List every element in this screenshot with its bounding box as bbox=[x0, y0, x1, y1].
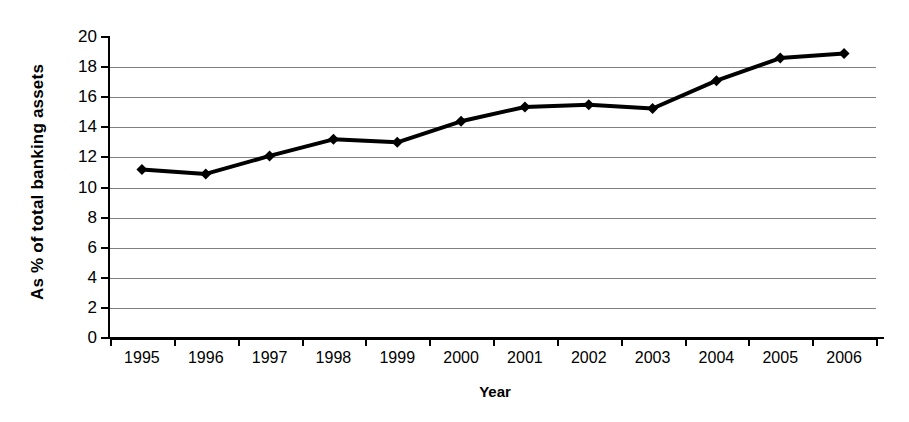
y-axis-tick-label: 4 bbox=[55, 268, 97, 288]
plot-area bbox=[110, 37, 876, 338]
y-axis-tick bbox=[101, 247, 108, 249]
x-axis-tick bbox=[174, 339, 176, 346]
x-axis-tick bbox=[493, 339, 495, 346]
x-axis-tick-label: 2000 bbox=[443, 349, 479, 367]
data-point-marker bbox=[264, 150, 275, 161]
x-axis-tick-label: 1998 bbox=[316, 349, 352, 367]
x-axis-tick-label: 2003 bbox=[635, 349, 671, 367]
y-axis-tick bbox=[101, 307, 108, 309]
x-axis-tick-label: 1997 bbox=[252, 349, 288, 367]
y-axis-tick-label: 2 bbox=[55, 298, 97, 318]
y-axis-tick-label: 8 bbox=[55, 208, 97, 228]
data-series-line bbox=[110, 37, 876, 338]
x-axis-tick-label: 2004 bbox=[699, 349, 735, 367]
y-axis-tick-label: 10 bbox=[55, 178, 97, 198]
x-axis-tick bbox=[302, 339, 304, 346]
data-point-marker bbox=[328, 134, 339, 145]
data-point-marker bbox=[839, 48, 850, 59]
x-axis-tick bbox=[812, 339, 814, 346]
x-axis-tick bbox=[557, 339, 559, 346]
x-axis-tick-label: 2002 bbox=[571, 349, 607, 367]
x-axis-tick bbox=[685, 339, 687, 346]
x-axis-tick bbox=[110, 339, 112, 346]
y-axis-tick bbox=[101, 96, 108, 98]
x-axis-tick bbox=[429, 339, 431, 346]
series-line bbox=[142, 54, 844, 174]
x-axis-tick-label: 2006 bbox=[826, 349, 862, 367]
data-point-marker bbox=[200, 168, 211, 179]
x-axis-tick-label: 2001 bbox=[507, 349, 543, 367]
y-axis-tick-label: 16 bbox=[55, 87, 97, 107]
line-chart: As % of total banking assets 02468101214… bbox=[0, 0, 909, 422]
x-axis-tick bbox=[748, 339, 750, 346]
x-axis-tick-label: 2005 bbox=[762, 349, 798, 367]
x-axis-tick bbox=[876, 339, 878, 346]
x-axis-tick-label: 1999 bbox=[379, 349, 415, 367]
y-axis-tick-label: 0 bbox=[55, 328, 97, 348]
y-axis-tick-label: 14 bbox=[55, 117, 97, 137]
data-point-marker bbox=[456, 116, 467, 127]
y-axis-tick bbox=[101, 66, 108, 68]
x-axis-tick-label: 1995 bbox=[124, 349, 160, 367]
data-point-marker bbox=[519, 101, 530, 112]
y-axis-tick-label: 18 bbox=[55, 57, 97, 77]
y-axis-tick bbox=[101, 156, 108, 158]
y-axis-tick bbox=[101, 126, 108, 128]
y-axis-tick bbox=[101, 337, 108, 339]
y-axis-tick-label: 20 bbox=[55, 27, 97, 47]
x-axis-tick bbox=[621, 339, 623, 346]
y-axis-tick bbox=[101, 217, 108, 219]
y-axis-tick bbox=[101, 36, 108, 38]
y-axis-tick bbox=[101, 277, 108, 279]
x-axis-title: Year bbox=[110, 383, 880, 400]
y-axis-tick-label: 6 bbox=[55, 238, 97, 258]
y-axis-tick bbox=[101, 187, 108, 189]
x-axis-tick bbox=[238, 339, 240, 346]
x-axis-tick bbox=[365, 339, 367, 346]
y-axis-tick-label: 12 bbox=[55, 147, 97, 167]
x-axis-tick-label: 1996 bbox=[188, 349, 224, 367]
data-point-marker bbox=[136, 164, 147, 175]
data-point-marker bbox=[392, 137, 403, 148]
data-point-marker bbox=[775, 53, 786, 64]
y-axis-title: As % of total banking assets bbox=[18, 12, 58, 352]
data-point-marker bbox=[583, 99, 594, 110]
